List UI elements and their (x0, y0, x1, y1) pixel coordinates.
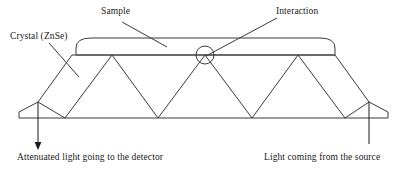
detector-arrow-head (35, 142, 42, 150)
beam-path (38, 55, 369, 118)
crystal-shape (19, 55, 388, 118)
label-interaction: Interaction (276, 6, 318, 17)
label-sample: Sample (101, 6, 130, 17)
label-crystal: Crystal (ZnSe) (10, 31, 68, 42)
leader-line-crystal (49, 43, 79, 77)
label-source-light: Light coming from the source (264, 152, 380, 163)
leader-line-sample (122, 22, 167, 47)
leader-line-interaction (206, 18, 277, 56)
diagram-canvas (0, 0, 407, 173)
label-attenuated-light: Attenuated light going to the detector (17, 152, 163, 163)
atr-diagram-figure: Sample Interaction Crystal (ZnSe) Attenu… (0, 0, 407, 173)
